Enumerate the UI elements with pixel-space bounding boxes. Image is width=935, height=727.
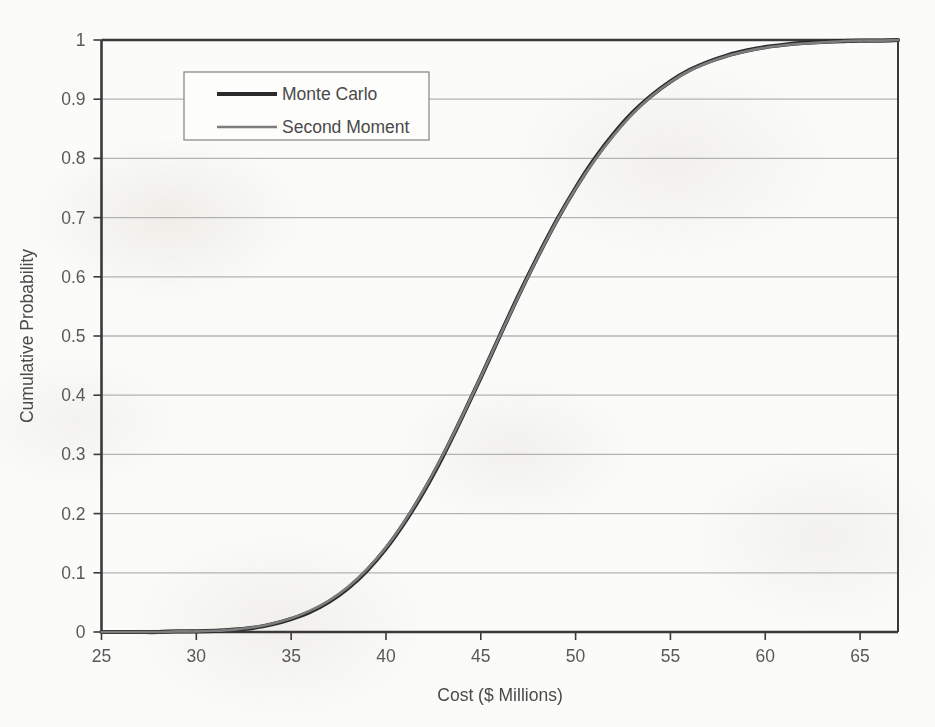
y-tick-label: 0.9 <box>61 89 85 109</box>
y-axis-title: Cumulative Probability <box>17 249 37 423</box>
chart-figure: 253035404550556065 00.10.20.30.40.50.60.… <box>0 0 935 727</box>
x-tick-label: 40 <box>376 646 396 666</box>
x-tick-label: 50 <box>566 646 586 666</box>
legend-label-monte-carlo: Monte Carlo <box>282 84 377 104</box>
x-tick-label: 55 <box>661 646 680 666</box>
y-axis-tick-labels: 00.10.20.30.40.50.60.70.80.91 <box>61 30 86 642</box>
y-tick-label: 1 <box>76 30 86 50</box>
legend-label-second-moment: Second Moment <box>282 117 410 137</box>
x-tick-label: 65 <box>850 646 869 666</box>
y-tick-label: 0.4 <box>61 385 86 405</box>
y-tick-label: 0 <box>76 622 86 642</box>
y-tick-label: 0.3 <box>61 444 85 464</box>
y-tick-label: 0.7 <box>61 208 85 228</box>
y-tick-label: 0.6 <box>61 267 85 287</box>
y-tick-label: 0.5 <box>61 326 85 346</box>
x-tick-label: 45 <box>471 646 490 666</box>
chart-legend: Monte CarloSecond Moment <box>184 72 429 140</box>
x-tick-label: 60 <box>756 646 776 666</box>
y-tick-label: 0.8 <box>61 148 85 168</box>
x-tick-label: 25 <box>92 646 111 666</box>
x-axis-title: Cost ($ Millions) <box>437 685 562 705</box>
y-tick-label: 0.1 <box>61 563 85 583</box>
x-tick-label: 35 <box>281 646 300 666</box>
cumulative-probability-chart: 253035404550556065 00.10.20.30.40.50.60.… <box>0 0 935 727</box>
y-tick-label: 0.2 <box>61 504 85 524</box>
x-tick-label: 30 <box>187 646 207 666</box>
x-axis-tick-labels: 253035404550556065 <box>92 646 870 666</box>
